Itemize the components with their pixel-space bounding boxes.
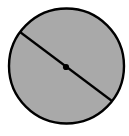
figure-canvas [0, 0, 129, 136]
circle-diagram [0, 0, 129, 136]
center-point-dot [63, 64, 69, 70]
